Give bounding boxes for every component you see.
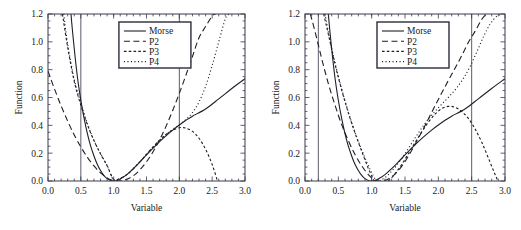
legend-label-p3: P3: [407, 47, 417, 57]
xtick-label: 1.0: [366, 186, 378, 196]
xtick-label: 0.5: [332, 186, 344, 196]
legend-label-p3: P3: [149, 47, 159, 57]
ytick-label: 0.2: [288, 149, 300, 159]
two-panel-figure: 0.00.51.01.52.02.53.00.00.20.40.60.81.01…: [0, 0, 521, 230]
ytick-label: 1.0: [288, 37, 300, 47]
xtick-label: 3.0: [239, 186, 251, 196]
ytick-label: 0.0: [31, 176, 43, 186]
x-axis-title: Variable: [389, 203, 421, 213]
xtick-label: 3.0: [499, 186, 511, 196]
xtick-label: 2.0: [432, 186, 444, 196]
legend-label-p2: P2: [407, 37, 417, 47]
xtick-label: 0.0: [42, 186, 54, 196]
ytick-label: 0.8: [288, 65, 300, 75]
ytick-label: 0.0: [288, 176, 300, 186]
y-axis-title: Function: [14, 80, 24, 114]
chart-panel-left: 0.00.51.01.52.02.53.00.00.20.40.60.81.01…: [0, 0, 260, 230]
ytick-label: 1.2: [288, 9, 300, 19]
xtick-label: 1.5: [141, 186, 153, 196]
xtick-label: 0.5: [75, 186, 87, 196]
ytick-label: 1.0: [31, 37, 43, 47]
y-axis-title: Function: [271, 80, 281, 114]
ytick-label: 0.8: [31, 65, 43, 75]
xtick-label: 0.0: [299, 186, 311, 196]
legend-label-morse: Morse: [149, 26, 173, 36]
chart-panel-right: 0.00.51.01.52.02.53.00.00.20.40.60.81.01…: [261, 0, 521, 230]
ytick-label: 0.6: [288, 93, 300, 103]
ytick-label: 0.4: [288, 121, 300, 131]
ytick-label: 0.6: [31, 93, 43, 103]
xtick-label: 2.5: [466, 186, 478, 196]
legend: MorseP2P3P4: [119, 22, 191, 68]
xtick-label: 2.5: [206, 186, 218, 196]
legend-label-p2: P2: [149, 37, 159, 47]
ytick-label: 0.2: [31, 149, 43, 159]
ytick-label: 0.4: [31, 121, 43, 131]
ytick-label: 1.2: [31, 9, 43, 19]
legend: MorseP2P3P4: [377, 22, 449, 68]
xtick-label: 1.0: [108, 186, 120, 196]
xtick-label: 2.0: [173, 186, 185, 196]
x-axis-title: Variable: [131, 203, 163, 213]
legend-label-p4: P4: [149, 57, 159, 67]
legend-label-p4: P4: [407, 57, 417, 67]
xtick-label: 1.5: [399, 186, 411, 196]
legend-label-morse: Morse: [407, 26, 431, 36]
